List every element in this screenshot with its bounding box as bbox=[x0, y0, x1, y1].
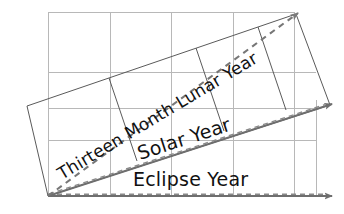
lunar-year-label: Thirteen Month Lunar Year bbox=[53, 48, 261, 184]
eclipse-year-label: Eclipse Year bbox=[133, 168, 248, 190]
diagram-root: Eclipse Year Solar Year Thirteen Month L… bbox=[0, 0, 344, 214]
year-comparison-diagram: Eclipse Year Solar Year Thirteen Month L… bbox=[0, 0, 344, 214]
label-group: Eclipse Year Solar Year Thirteen Month L… bbox=[53, 48, 261, 190]
